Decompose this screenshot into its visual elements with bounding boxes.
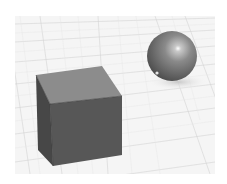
cube-front-face <box>50 96 122 166</box>
scene-canvas <box>0 0 227 184</box>
render-scene <box>0 0 227 184</box>
sphere <box>147 31 197 81</box>
sphere-specular <box>155 71 158 74</box>
cube <box>36 66 122 166</box>
